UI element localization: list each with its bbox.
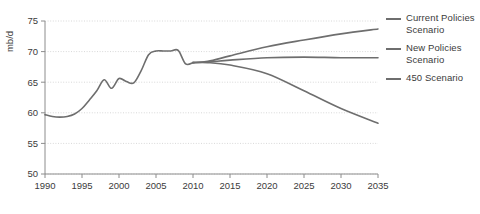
svg-text:55: 55 bbox=[27, 138, 38, 149]
legend: Current Policies Scenario New Policies S… bbox=[386, 12, 480, 91]
svg-text:2035: 2035 bbox=[367, 180, 388, 191]
y-axis-ticks: 505560657075 bbox=[27, 15, 45, 179]
svg-text:2025: 2025 bbox=[293, 180, 314, 191]
legend-swatch-icon bbox=[386, 78, 401, 80]
svg-text:1990: 1990 bbox=[34, 180, 55, 191]
svg-text:50: 50 bbox=[27, 168, 38, 179]
svg-text:75: 75 bbox=[27, 15, 38, 26]
legend-item-current-policies[interactable]: Current Policies Scenario bbox=[386, 12, 480, 35]
x-axis-ticks: 1990199520002005201020152020202520302035 bbox=[34, 174, 388, 191]
axes bbox=[45, 21, 378, 174]
legend-label: Current Policies Scenario bbox=[406, 12, 480, 35]
legend-swatch-icon bbox=[386, 48, 401, 50]
svg-text:1995: 1995 bbox=[71, 180, 92, 191]
svg-text:65: 65 bbox=[27, 77, 38, 88]
svg-text:2020: 2020 bbox=[256, 180, 277, 191]
series-lines bbox=[45, 29, 378, 123]
svg-text:2030: 2030 bbox=[330, 180, 351, 191]
legend-item-450-scenario[interactable]: 450 Scenario bbox=[386, 72, 480, 84]
legend-label: 450 Scenario bbox=[406, 72, 463, 84]
legend-item-new-policies[interactable]: New Policies Scenario bbox=[386, 42, 480, 65]
gridlines bbox=[45, 21, 378, 174]
svg-text:70: 70 bbox=[27, 46, 38, 57]
line-chart: mb/d 505560657075 1990199520002005201020… bbox=[0, 0, 480, 214]
svg-text:2000: 2000 bbox=[108, 180, 129, 191]
legend-label: New Policies Scenario bbox=[406, 42, 480, 65]
svg-text:60: 60 bbox=[27, 107, 38, 118]
legend-swatch-icon bbox=[386, 18, 401, 20]
svg-text:2005: 2005 bbox=[145, 180, 166, 191]
svg-text:2010: 2010 bbox=[182, 180, 203, 191]
svg-text:2015: 2015 bbox=[219, 180, 240, 191]
